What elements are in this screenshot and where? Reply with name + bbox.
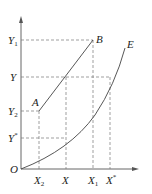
y-axis-arrow-icon xyxy=(19,16,23,23)
x2-label: X2 xyxy=(33,174,45,188)
ystar-label: Y* xyxy=(8,131,18,144)
x-label: X xyxy=(61,174,70,186)
y2-label: Y2 xyxy=(8,105,18,119)
point-b-label: B xyxy=(96,33,103,45)
axes xyxy=(19,16,139,171)
diagram-canvas: O A B E Y1 Y Y2 Y* X2 X X1 X* xyxy=(0,0,152,194)
y-label: Y xyxy=(10,71,18,83)
origin-label: O xyxy=(10,163,18,175)
x-axis-arrow-icon xyxy=(132,167,139,171)
xstar-label: X* xyxy=(105,173,117,186)
x1-label: X1 xyxy=(87,174,99,188)
point-a-label: A xyxy=(31,96,39,108)
y1-label: Y1 xyxy=(8,34,18,48)
curve-e-label: E xyxy=(126,38,134,50)
line-ab xyxy=(39,40,93,111)
